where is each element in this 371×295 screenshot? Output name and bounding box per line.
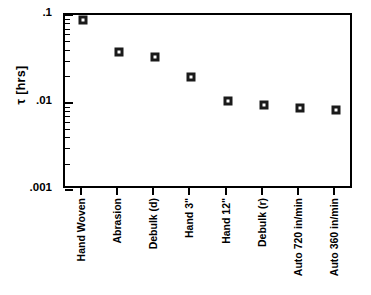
chart-figure: τ [hrs] .1 .01 .001 Hand WovenAbrasionDe…: [0, 0, 371, 295]
data-point-marker: [79, 15, 88, 24]
y-tick-minor: [65, 34, 70, 35]
x-tick-1: [116, 188, 118, 195]
plot-area: [63, 13, 352, 188]
y-tick-minor: [65, 107, 70, 108]
y-tick-minor: [65, 164, 70, 165]
x-category-label-6: Auto 720 in/min: [292, 198, 304, 276]
x-tick-6: [297, 188, 299, 195]
x-tick-7: [333, 188, 335, 195]
y-tick-minor: [65, 76, 70, 77]
x-tick-2: [152, 188, 154, 195]
y-tick-minor: [65, 19, 70, 20]
x-category-label-5: Debulk (r): [256, 198, 268, 247]
y-tick-minor: [65, 50, 70, 51]
x-category-label-4: Hand 12": [220, 198, 232, 244]
x-tick-5: [261, 188, 263, 195]
y-tick-minor: [65, 29, 70, 30]
y-tick-minor: [65, 116, 70, 117]
y-tick-major-0: [65, 14, 73, 16]
y-tick-minor: [65, 41, 70, 42]
y-tick-minor: [65, 111, 70, 112]
y-tick-minor: [65, 61, 70, 62]
y-tick-minor: [65, 148, 70, 149]
y-tick-minor: [65, 137, 70, 138]
y-tick-major-1: [65, 102, 73, 104]
y-tick-minor: [65, 129, 70, 130]
x-category-label-3: Hand 3": [183, 198, 195, 238]
data-point-marker: [331, 105, 340, 114]
x-category-label-1: Abrasion: [111, 198, 123, 244]
data-point-marker: [115, 47, 124, 56]
data-point-marker: [151, 53, 160, 62]
y-tick-minor: [65, 23, 70, 24]
y-tick-label-1: .01: [36, 94, 52, 106]
y-tick-label-2: .001: [30, 181, 52, 193]
data-point-marker: [187, 73, 196, 82]
data-point-marker: [223, 96, 232, 105]
x-tick-0: [80, 188, 82, 195]
x-tick-4: [225, 188, 227, 195]
y-tick-minor: [65, 122, 70, 123]
data-point-marker: [295, 104, 304, 113]
y-tick-major-2: [65, 189, 73, 191]
y-tick-label-0: .1: [42, 6, 52, 18]
x-category-label-0: Hand Woven: [75, 198, 87, 261]
data-point-marker: [259, 100, 268, 109]
x-category-label-7: Auto 360 in/min: [328, 198, 340, 276]
y-axis-tick-labels: .1 .01 .001: [0, 0, 60, 295]
x-tick-3: [188, 188, 190, 195]
x-category-label-2: Debulk (d): [147, 198, 159, 249]
